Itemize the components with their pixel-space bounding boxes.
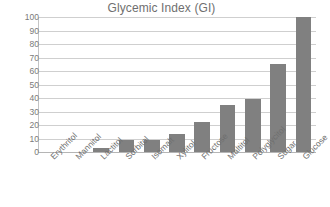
y-tick-label-60: 60 (9, 67, 39, 76)
y-tick-label-70: 70 (9, 54, 39, 63)
y-tick-label-100: 100 (9, 13, 39, 22)
bar-slot (169, 17, 185, 152)
bar-slot (119, 17, 135, 152)
y-tick-label-30: 30 (9, 108, 39, 117)
bar-glucose (296, 17, 312, 152)
y-tick-label-80: 80 (9, 40, 39, 49)
y-tick-label-0: 0 (9, 148, 39, 157)
y-tick-label-40: 40 (9, 94, 39, 103)
bar-slot (245, 17, 261, 152)
y-tick-label-10: 10 (9, 135, 39, 144)
bar-slot (43, 17, 59, 152)
chart-title: Glycemic Index (GI) (0, 1, 323, 15)
bar-slot (296, 17, 312, 152)
y-tick-label-90: 90 (9, 27, 39, 36)
bar-slot (194, 17, 210, 152)
x-axis-tick-labels: ErythritolMannitolLactitolSorbitolIsomal… (38, 153, 316, 207)
y-tick-label-20: 20 (9, 121, 39, 130)
bar-slot (144, 17, 160, 152)
y-tick-label-50: 50 (9, 81, 39, 90)
